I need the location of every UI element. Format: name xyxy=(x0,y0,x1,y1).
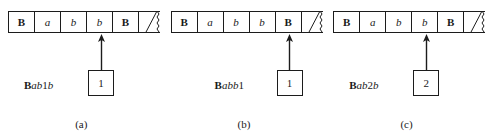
tape-torn-end-icon xyxy=(463,11,485,33)
config-part: ab xyxy=(357,79,368,91)
tape-b: B a b b B xyxy=(171,11,323,33)
configuration-label-a: Bab1b xyxy=(24,80,53,91)
figure-panel-a: B a b b B 1 Bab1b (a) xyxy=(0,0,163,139)
tape-cell: B xyxy=(333,11,359,33)
tape-a: B a b b B xyxy=(8,11,160,33)
state-box-a: 1 xyxy=(88,70,114,96)
tape-cell: B xyxy=(8,11,34,33)
tape-cell: b xyxy=(86,11,112,33)
tape-cell: B xyxy=(437,11,463,33)
config-part: b xyxy=(48,79,54,91)
state-box-c: 2 xyxy=(413,70,439,96)
panel-caption-c: (c) xyxy=(325,119,488,130)
config-part: abb xyxy=(222,79,239,91)
tape-cell: b xyxy=(249,11,275,33)
config-part: ab xyxy=(31,79,42,91)
tape-torn-end-icon xyxy=(301,11,323,33)
state-box-b: 1 xyxy=(277,70,303,96)
tape-cell: b xyxy=(411,11,437,33)
tape-head-arrow-b xyxy=(285,34,294,70)
figure-panel-b: B a b b B 1 Babb1 (b) xyxy=(163,0,326,139)
tape-cell: b xyxy=(60,11,86,33)
tape-head-arrow-c xyxy=(422,34,431,70)
configuration-label-b: Babb1 xyxy=(215,80,244,91)
config-part: B xyxy=(215,79,222,91)
tape-torn-end-icon xyxy=(138,11,160,33)
figure-container: B a b b B 1 Bab1b (a) B xyxy=(0,0,488,139)
config-part: b xyxy=(373,79,379,91)
figure-panel-c: B a b b B 2 Bab2b (c) xyxy=(325,0,488,139)
panel-caption-b: (b) xyxy=(163,119,326,130)
tape-c: B a b b B xyxy=(333,11,485,33)
tape-cell: a xyxy=(359,11,385,33)
tape-cell: b xyxy=(385,11,411,33)
configuration-label-c: Bab2b xyxy=(349,80,378,91)
config-part: B xyxy=(349,79,356,91)
tape-cell: b xyxy=(223,11,249,33)
panel-caption-a: (a) xyxy=(0,119,163,130)
tape-cell: B xyxy=(112,11,138,33)
tape-head-arrow-a xyxy=(97,34,106,70)
tape-cell: a xyxy=(197,11,223,33)
tape-cell: B xyxy=(171,11,197,33)
tape-cell: B xyxy=(275,11,301,33)
tape-cell: a xyxy=(34,11,60,33)
config-part: 1 xyxy=(238,79,244,91)
